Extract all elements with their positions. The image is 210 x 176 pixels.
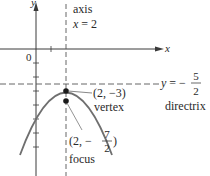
x-axis-label: x [164, 42, 170, 54]
axis-eq-value: = 2 [78, 17, 97, 31]
origin-label: 0 [26, 51, 32, 63]
directrix-equation: y = − [160, 76, 186, 90]
focus-label: focus [69, 152, 95, 166]
vertex-coord: (2, −3) [93, 86, 126, 100]
y-axis: y [30, 0, 39, 176]
directrix-label: directrix [165, 99, 206, 113]
vertex: (2, −3) vertex [63, 86, 126, 114]
directrix-frac-num: 5 [193, 70, 199, 82]
focus-frac-den: 2 [104, 142, 110, 154]
vertex-label: vertex [94, 100, 124, 114]
x-axis-arrow-icon [155, 47, 164, 52]
axis-equation: x = 2 [72, 17, 97, 31]
x-axis: x 0 [0, 42, 170, 63]
y-axis-label: y [30, 0, 36, 8]
focus-leader-line [67, 103, 82, 130]
parabola-diagram: y x 0 axis x = 2 y = − 5 2 directrix [0, 0, 210, 176]
focus-coord-suffix: ) [113, 134, 117, 148]
vertex-point [63, 88, 69, 94]
directrix-eq-sign: = − [166, 76, 186, 90]
focus-coord-prefix: (2, − [69, 134, 92, 148]
focus-frac-num: 7 [104, 128, 110, 140]
focus-coord: (2, − [69, 134, 92, 148]
focus-point [63, 98, 69, 104]
axis-label: axis [73, 2, 93, 16]
directrix-frac-den: 2 [193, 85, 199, 97]
